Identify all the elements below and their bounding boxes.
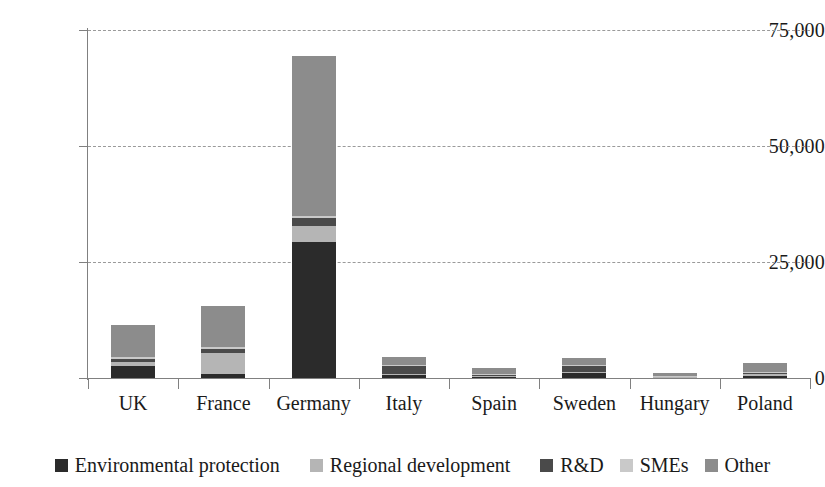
legend-swatch-icon — [55, 459, 68, 472]
bars-layer — [88, 30, 810, 378]
bar-segment-uk-other — [111, 325, 155, 357]
bar-segment-france-smes — [201, 347, 245, 348]
legend-item-other[interactable]: Other — [705, 454, 771, 476]
bar-segment-spain-environmental-protection — [472, 377, 516, 378]
legend-label: Other — [725, 454, 771, 476]
bar-segment-germany-regional-development — [292, 226, 336, 241]
bar-segment-uk-smes — [111, 357, 155, 359]
legend-item-regional-development[interactable]: Regional development — [310, 454, 511, 476]
x-axis-tick-mark-7 — [720, 378, 721, 389]
bar-segment-uk-environmental-protection — [111, 366, 155, 378]
bar-italy — [382, 357, 426, 378]
legend-label: Environmental protection — [75, 454, 280, 476]
bar-segment-sweden-environmental-protection — [562, 373, 606, 378]
bar-segment-france-regional-development — [201, 353, 245, 373]
bar-segment-germany-r-d — [292, 218, 336, 226]
legend-label: R&D — [560, 454, 603, 476]
bar-segment-poland-other — [743, 363, 787, 372]
bar-segment-italy-regional-development — [382, 374, 426, 375]
bar-germany — [292, 56, 336, 378]
x-axis-label-italy: Italy — [386, 391, 423, 415]
bar-segment-poland-r-d — [743, 373, 787, 374]
bar-segment-uk-r-d — [111, 359, 155, 362]
legend-item-r-d[interactable]: R&D — [540, 454, 603, 476]
legend-swatch-icon — [705, 459, 718, 472]
bar-segment-italy-smes — [382, 365, 426, 366]
plot-area — [88, 30, 810, 378]
x-axis-label-hungary: Hungary — [640, 391, 710, 415]
bar-segment-italy-other — [382, 357, 426, 365]
bar-segment-italy-environmental-protection — [382, 375, 426, 378]
bar-segment-hungary-other — [653, 373, 697, 375]
x-axis-tick-mark-3 — [359, 378, 360, 389]
bar-segment-spain-regional-development — [472, 376, 516, 377]
legend-swatch-icon — [620, 459, 633, 472]
bar-segment-sweden-r-d — [562, 366, 606, 372]
bar-segment-france-other — [201, 306, 245, 347]
x-axis-tick-mark-6 — [630, 378, 631, 389]
bar-hungary — [653, 373, 697, 378]
bar-segment-spain-r-d — [472, 375, 516, 376]
x-axis-tick-mark-1 — [178, 378, 179, 389]
bar-segment-france-r-d — [201, 349, 245, 354]
x-axis-label-germany: Germany — [276, 391, 350, 415]
bar-segment-germany-smes — [292, 216, 336, 218]
bar-france — [201, 306, 245, 378]
legend-swatch-icon — [540, 459, 553, 472]
x-axis-tick-mark-8 — [810, 378, 811, 389]
legend-item-smes[interactable]: SMEs — [620, 454, 689, 476]
x-axis-tick-mark-4 — [449, 378, 450, 389]
bar-segment-poland-smes — [743, 372, 787, 373]
bar-segment-hungary-environmental-protection — [653, 377, 697, 378]
bar-segment-poland-regional-development — [743, 374, 787, 375]
bar-segment-italy-r-d — [382, 366, 426, 374]
x-axis-tick-mark-5 — [539, 378, 540, 389]
bar-segment-germany-other — [292, 56, 336, 217]
x-axis-label-poland: Poland — [737, 391, 793, 415]
bar-segment-poland-environmental-protection — [743, 376, 787, 378]
legend-label: SMEs — [640, 454, 689, 476]
legend-swatch-icon — [310, 459, 323, 472]
bar-segment-sweden-other — [562, 358, 606, 365]
bar-spain — [472, 368, 516, 378]
bar-uk — [111, 325, 155, 378]
legend-label: Regional development — [330, 454, 511, 476]
bar-poland — [743, 363, 787, 378]
chart-legend: Environmental protectionRegional develop… — [0, 448, 825, 482]
x-axis-label-spain: Spain — [471, 391, 517, 415]
x-axis-label-sweden: Sweden — [553, 391, 616, 415]
bar-segment-uk-regional-development — [111, 362, 155, 366]
bar-segment-sweden-smes — [562, 365, 606, 366]
stacked-bar-chart: 75,000 50,000 25,000 0 UKFranceGermanyIt… — [0, 0, 825, 487]
bar-segment-germany-environmental-protection — [292, 242, 336, 378]
x-axis-label-france: France — [196, 391, 250, 415]
bar-segment-sweden-regional-development — [562, 372, 606, 373]
bar-sweden — [562, 358, 606, 378]
bar-segment-spain-other — [472, 368, 516, 374]
x-axis-tick-mark-0 — [88, 378, 89, 389]
bar-segment-france-environmental-protection — [201, 374, 245, 378]
legend-item-environmental-protection[interactable]: Environmental protection — [55, 454, 280, 476]
x-axis-tick-mark-2 — [269, 378, 270, 389]
x-axis-label-uk: UK — [119, 391, 148, 415]
